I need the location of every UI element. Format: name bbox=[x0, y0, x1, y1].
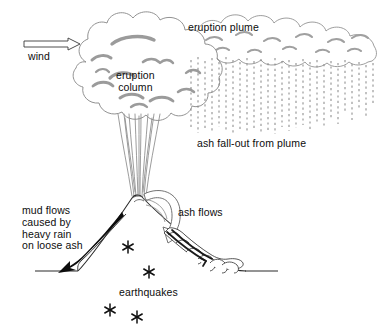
earthquake-asterisk bbox=[132, 311, 142, 323]
label-eruption-column-line2: column bbox=[118, 81, 152, 93]
label-ash-fallout: ash fall-out from plume bbox=[197, 138, 306, 150]
label-earthquakes: earthquakes bbox=[119, 287, 178, 299]
label-ash-flows: ash flows bbox=[178, 207, 223, 219]
volcano-hazards-diagram: eruption plume eruptioncolumn ash fall-o… bbox=[0, 0, 379, 334]
label-mud-flows-line3: heavy rain bbox=[22, 228, 71, 240]
diagram-canvas bbox=[0, 0, 379, 334]
label-mud-flows-line4: on loose ash bbox=[22, 239, 83, 251]
earthquake-asterisk bbox=[123, 241, 133, 253]
wind-arrow-icon bbox=[24, 38, 80, 50]
eruption-column bbox=[118, 114, 160, 196]
earthquake-asterisks bbox=[105, 241, 154, 323]
label-mud-flows: mud flowscaused byheavy rainon loose ash bbox=[22, 205, 83, 252]
earthquake-asterisk bbox=[144, 266, 154, 278]
label-eruption-column-line1: eruption bbox=[116, 69, 155, 81]
label-wind: wind bbox=[28, 51, 50, 63]
earthquake-asterisk bbox=[105, 304, 115, 316]
label-mud-flows-line1: mud flows bbox=[22, 204, 70, 216]
label-eruption-column: eruptioncolumn bbox=[116, 70, 155, 93]
label-mud-flows-line2: caused by bbox=[22, 216, 71, 228]
label-eruption-plume: eruption plume bbox=[188, 22, 259, 34]
